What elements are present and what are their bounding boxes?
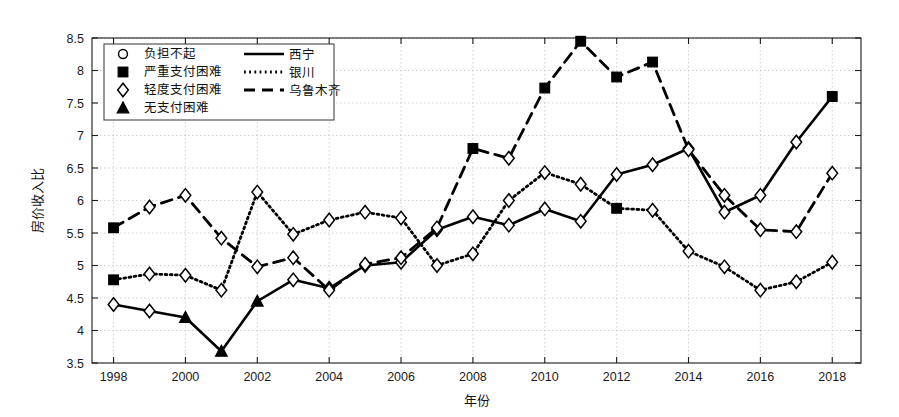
legend-marker-label: 负担不起 [144, 46, 196, 61]
x-tick-label: 2014 [675, 370, 703, 384]
marker-severe-difficulty [118, 67, 128, 77]
marker-severe-difficulty [468, 144, 478, 154]
x-tick-label: 2016 [746, 370, 774, 384]
x-tick-label: 2002 [243, 370, 271, 384]
y-tick-label: 4.5 [67, 292, 84, 306]
legend-line-label: 银川 [289, 65, 315, 80]
marker-severe-difficulty [540, 83, 550, 93]
y-tick-label: 8.5 [67, 32, 84, 46]
chart-figure: 3.544.555.566.577.588.5 1998200020022004… [0, 0, 899, 417]
legend-marker-label: 轻度支付困难 [144, 82, 222, 97]
x-tick-label: 1998 [100, 370, 128, 384]
marker-severe-difficulty [827, 92, 837, 102]
line-chart: 3.544.555.566.577.588.5 1998200020022004… [0, 0, 899, 417]
marker-severe-difficulty [109, 223, 119, 233]
y-tick-label: 8 [77, 64, 84, 78]
chart-legend: 负担不起严重支付困难轻度支付困难无支付困难西宁银川乌鲁木齐 [104, 44, 341, 120]
legend-line-label: 西宁 [289, 47, 315, 62]
y-axis-title: 房价收入比 [30, 168, 45, 233]
marker-severe-difficulty [576, 36, 586, 46]
marker-severe-difficulty [612, 72, 622, 82]
x-axis-title: 年份 [464, 393, 490, 408]
marker-severe-difficulty [109, 275, 119, 285]
legend-line-label: 乌鲁木齐 [289, 83, 341, 98]
x-tick-label: 2008 [459, 370, 487, 384]
marker-severe-difficulty [612, 203, 622, 213]
x-tick-label: 2010 [531, 370, 559, 384]
y-tick-label: 3.5 [67, 357, 84, 371]
y-tick-label: 6 [77, 194, 84, 208]
y-tick-label: 6.5 [67, 162, 84, 176]
x-tick-label: 2018 [818, 370, 846, 384]
x-tick-label: 2004 [315, 370, 343, 384]
legend-marker-label: 无支付困难 [144, 100, 209, 115]
y-tick-label: 7 [77, 129, 84, 143]
marker-severe-difficulty [648, 57, 658, 67]
y-tick-label: 5.5 [67, 227, 84, 241]
x-tick-label: 2006 [387, 370, 415, 384]
y-tick-label: 7.5 [67, 97, 84, 111]
legend-marker-label: 严重支付困难 [144, 64, 222, 79]
marker-unaffordable [119, 50, 128, 59]
y-tick-label: 5 [77, 259, 84, 273]
x-tick-label: 2012 [603, 370, 631, 384]
x-tick-label: 2000 [172, 370, 200, 384]
y-tick-label: 4 [77, 324, 84, 338]
